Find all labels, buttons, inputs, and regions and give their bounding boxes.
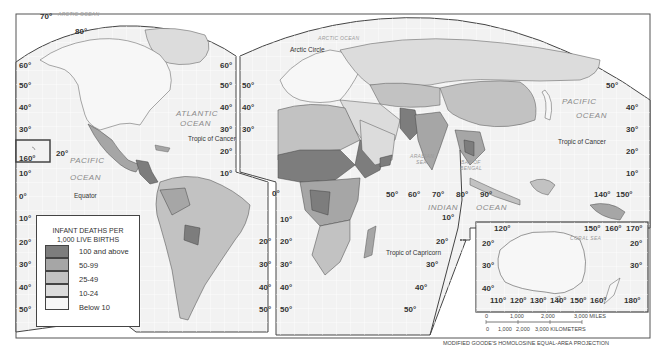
- lat-label: 40°: [415, 284, 427, 292]
- tropic-of-cancer-label-left: Tropic of Cancer: [188, 136, 236, 143]
- lat-label: 40°: [19, 284, 31, 292]
- legend: INFANT DEATHS PER 1,000 LIVE BIRTHS 100 …: [36, 215, 140, 327]
- legend-swatch-10-24: [45, 284, 69, 297]
- projection-label: MODIFIED GOODE'S HOMOLOSINE EQUAL-AREA P…: [443, 340, 609, 346]
- scale-mi-3: 3,000 MILES: [574, 313, 606, 319]
- lat-label: 50°: [19, 82, 31, 90]
- inset-lon-label: 120°: [494, 225, 511, 233]
- legend-swatch-25-49: [45, 271, 69, 284]
- prime-meridian-label: 0°: [272, 190, 280, 198]
- lat-label: 30°: [426, 261, 438, 269]
- inset-lon-label: 150°: [584, 225, 601, 233]
- arabian-sea-label-2: SEA: [416, 160, 427, 165]
- hawaii-lon-label: 160°: [19, 155, 36, 163]
- bay-of-bengal-label-2: BENGAL: [460, 166, 482, 171]
- lat-label: 60°: [220, 62, 232, 70]
- atlantic-ocean-label-2: OCEAN: [180, 120, 211, 128]
- pacific-ocean-label-left-2: OCEAN: [70, 174, 101, 182]
- legend-label: Below 10: [79, 303, 110, 312]
- lat-label: 30°: [242, 126, 254, 134]
- inset-lon-label: 180°: [624, 297, 641, 305]
- lat-label: 50°: [19, 306, 31, 314]
- lat-label: 30°: [19, 126, 31, 134]
- pacific-ocean-label-left-1: PACIFIC: [70, 157, 104, 165]
- legend-swatch-50-99: [45, 258, 69, 271]
- lat-label: 0°: [19, 193, 27, 201]
- indian-ocean-label-1: INDIAN: [428, 204, 458, 212]
- inset-lon-label: 140°: [550, 297, 567, 305]
- lat-label: 20°: [259, 238, 271, 246]
- lat-label: 50°: [280, 306, 292, 314]
- arctic-circle-label: Arctic Circle: [290, 47, 325, 54]
- legend-swatch-below-10: [45, 297, 69, 310]
- lon-label: 90°: [480, 191, 492, 199]
- lat-label: 10°: [220, 170, 232, 178]
- legend-title-line-1: INFANT DEATHS PER: [37, 226, 139, 235]
- lat-label: 10°: [19, 170, 31, 178]
- lat-label-70: 70°: [40, 13, 52, 21]
- legend-label: 100 and above: [79, 247, 129, 256]
- inset-lon-label: 130°: [530, 297, 547, 305]
- arctic-ocean-label-left: ARCTIC OCEAN: [58, 12, 99, 17]
- pacific-ocean-label-right-1: PACIFIC: [562, 98, 596, 106]
- lat-label: 50°: [220, 82, 232, 90]
- lat-label: 30°: [19, 261, 31, 269]
- legend-label: 25-49: [79, 275, 98, 284]
- lon-label: 140°: [594, 191, 611, 199]
- lat-label: 10°: [626, 170, 638, 178]
- lat-label: 60°: [19, 62, 31, 70]
- lat-label: 10°: [19, 215, 31, 223]
- inset-lat-label: 20°: [630, 240, 642, 248]
- inset-lat-label: 40°: [482, 285, 494, 293]
- inset-lon-label: 160°: [590, 297, 607, 305]
- legend-label: 50-99: [79, 261, 98, 270]
- inset-lon-label: 160°: [605, 225, 622, 233]
- inset-lon-label: 170°: [626, 225, 643, 233]
- lon-label: 60°: [408, 191, 420, 199]
- lat-label: 40°: [280, 284, 292, 292]
- lat-label: 20°: [280, 238, 292, 246]
- lat-label: 30°: [280, 261, 292, 269]
- coral-sea-label: CORAL SEA: [570, 236, 601, 241]
- tropic-of-cancer-label-right: Tropic of Cancer: [558, 139, 606, 146]
- inset-lon-label: 150°: [570, 297, 587, 305]
- lat-label: 30°: [626, 126, 638, 134]
- legend-title: INFANT DEATHS PER 1,000 LIVE BIRTHS: [37, 226, 139, 244]
- lon-label: 70°: [432, 191, 444, 199]
- legend-label: 10-24: [79, 289, 98, 298]
- lon-label: 50°: [386, 191, 398, 199]
- scale-km-0: 0: [486, 326, 489, 332]
- scale-km-3: 3,000 KILOMETERS: [535, 326, 586, 332]
- lat-label: 40°: [19, 104, 31, 112]
- scale-mi-0: 0: [485, 313, 488, 319]
- lat-label: 40°: [626, 104, 638, 112]
- arctic-ocean-label-right: ARCTIC OCEAN: [318, 36, 359, 41]
- lat-label: 10°: [280, 216, 292, 224]
- lat-label: 50°: [242, 82, 254, 90]
- lat-label: 20°: [220, 148, 232, 156]
- lat-label: 40°: [220, 104, 232, 112]
- atlantic-ocean-label-1: ATLANTIC: [176, 110, 218, 118]
- legend-swatch-100-above: [45, 245, 69, 258]
- scale-mi-2: 2,000: [541, 313, 555, 319]
- lat-label: 20°: [626, 148, 638, 156]
- scale-km-1: 1,000: [498, 326, 512, 332]
- lat-label: 40°: [242, 104, 254, 112]
- lat-label: 10°: [442, 214, 454, 222]
- inset-lat-label: 20°: [482, 240, 494, 248]
- lat-label: 50°: [404, 306, 416, 314]
- lat-label-80: 80°: [75, 28, 87, 36]
- scale-mi-1: 1,000: [510, 313, 524, 319]
- legend-title-line-2: 1,000 LIVE BIRTHS: [37, 235, 139, 244]
- tropic-of-capricorn-label: Tropic of Capricorn: [386, 250, 441, 257]
- lat-label: 20°: [436, 238, 448, 246]
- inset-lat-label: 30°: [482, 262, 494, 270]
- lat-label: 30°: [259, 261, 271, 269]
- hawaii-lat-label: 20°: [56, 150, 68, 158]
- indian-ocean-label-2: OCEAN: [476, 204, 507, 212]
- lat-label: 50°: [606, 82, 618, 90]
- lon-label: 150°: [616, 191, 633, 199]
- lat-label: 50°: [259, 306, 271, 314]
- lat-label: 20°: [19, 239, 31, 247]
- inset-lon-label: 120°: [510, 297, 527, 305]
